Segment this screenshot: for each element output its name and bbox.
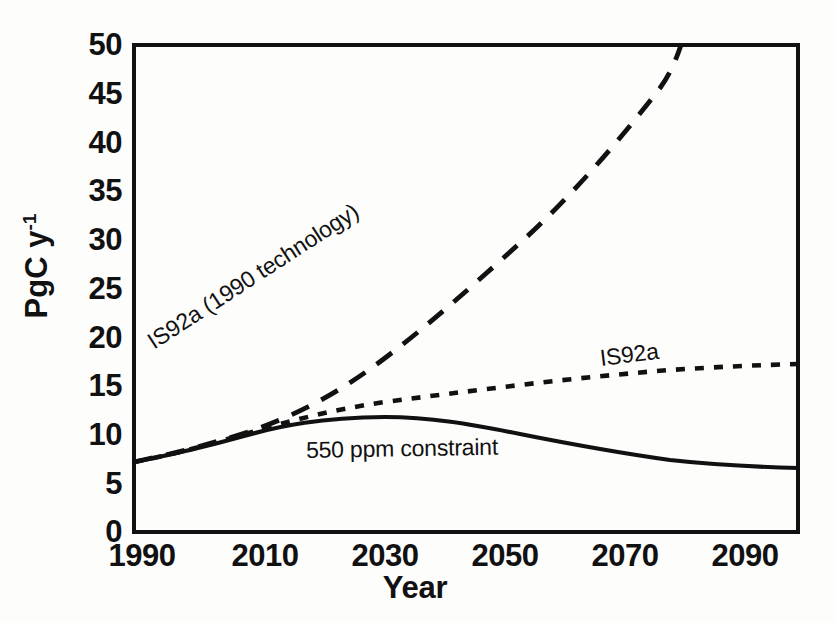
ytick-label: 40	[52, 125, 122, 161]
y-axis-title-base: PgC y	[19, 231, 54, 319]
ytick-label: 45	[52, 76, 122, 112]
plot-area	[0, 0, 835, 622]
y-axis-title: PgC y-1	[19, 196, 55, 336]
curve-is92a-1990-technology	[134, 45, 681, 462]
xtick-label: 2090	[685, 538, 805, 574]
xtick-label: 2010	[205, 538, 325, 574]
ytick-label: 50	[52, 27, 122, 63]
xtick-label: 2050	[445, 538, 565, 574]
x-axis-title: Year	[355, 570, 475, 606]
ytick-label: 35	[52, 173, 122, 209]
ytick-label: 30	[52, 222, 122, 258]
xtick-label: 2030	[325, 538, 445, 574]
ytick-label: 15	[52, 368, 122, 404]
ytick-label: 10	[52, 417, 122, 453]
ytick-label: 5	[52, 466, 122, 502]
curve-label-550-ppm-constraint: 550 ppm constraint	[306, 434, 498, 464]
chart-figure: 50 45 40 35 30 25 20 15 10 5 0 1990 2010…	[0, 0, 835, 622]
ytick-label: 25	[52, 271, 122, 307]
ytick-label: 20	[52, 320, 122, 356]
xtick-label: 1990	[82, 538, 202, 574]
y-axis-title-exponent: -1	[19, 214, 40, 231]
xtick-label: 2070	[565, 538, 685, 574]
